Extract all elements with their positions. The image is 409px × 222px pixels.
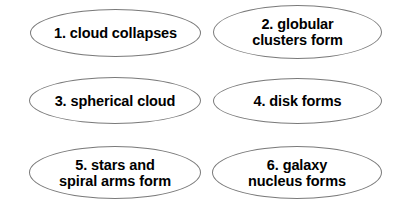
diagram-node-1[interactable]: 1. cloud collapses — [30, 9, 201, 57]
diagram-node-4[interactable]: 4. disk forms — [213, 78, 382, 124]
diagram-node-6[interactable]: 6. galaxy nucleus forms — [212, 146, 382, 199]
diagram-node-2-label: 2. globular clusters form — [246, 16, 349, 48]
diagram-node-3[interactable]: 3. spherical cloud — [29, 77, 201, 124]
diagram-node-5-label: 5. stars and spiral arms form — [53, 157, 177, 189]
diagram-node-4-label: 4. disk forms — [247, 93, 347, 109]
diagram-node-3-label: 3. spherical cloud — [49, 93, 182, 109]
diagram-node-6-label: 6. galaxy nucleus forms — [242, 157, 352, 189]
diagram-node-5[interactable]: 5. stars and spiral arms form — [29, 146, 201, 199]
diagram-node-1-label: 1. cloud collapses — [48, 25, 183, 41]
diagram-node-2[interactable]: 2. globular clusters form — [213, 5, 382, 59]
diagram-canvas: 1. cloud collapses 2. globular clusters … — [0, 0, 409, 222]
